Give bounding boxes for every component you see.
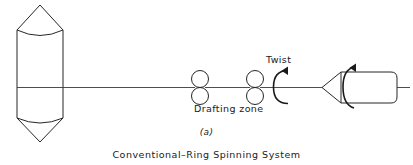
yarn-bobbin-package: [322, 72, 410, 103]
twist-arrow-arc: [274, 71, 289, 104]
roller-back-top: [192, 71, 209, 88]
bobbin-rotation-arrow: [343, 64, 356, 109]
twist-label: Twist: [266, 54, 291, 65]
twist-arrow-head: [282, 67, 289, 76]
bobbin-cylinder-body: [341, 72, 397, 103]
roller-back-bottom: [192, 88, 209, 105]
figure-caption: Conventional–Ring Spinning System: [0, 149, 413, 160]
subfigure-label: (a): [0, 127, 413, 137]
twist-rotation-arrow: [274, 67, 289, 104]
roving-package: [17, 5, 63, 142]
roving-package-top-cone: [17, 5, 63, 30]
bobbin-cone-tip: [322, 72, 341, 103]
figure-container: Twist Drafting zone (a) Conventional–Rin…: [0, 0, 413, 165]
roving-package-bottom-rim-arc: [17, 118, 63, 123]
drafting-zone-label: Drafting zone: [194, 103, 264, 114]
bobbin-arrow-head: [350, 64, 357, 73]
roller-front-top: [247, 71, 264, 88]
roller-front-bottom: [247, 88, 264, 105]
bobbin-arrow-arc: [343, 67, 354, 108]
roving-package-top-rim-arc: [17, 30, 63, 36]
spinning-system-diagram: [0, 0, 413, 165]
